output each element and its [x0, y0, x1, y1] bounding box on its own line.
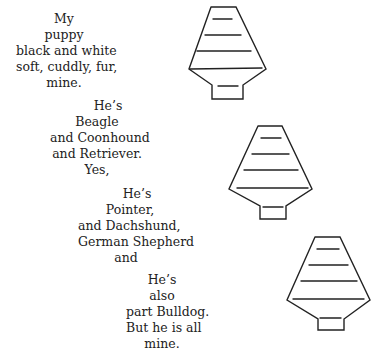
lantern-illustrations [0, 0, 385, 352]
lantern-drawing-3-icon [287, 237, 370, 330]
lantern-drawing-2-icon [229, 126, 312, 219]
lantern-drawing-1-icon [189, 7, 266, 99]
